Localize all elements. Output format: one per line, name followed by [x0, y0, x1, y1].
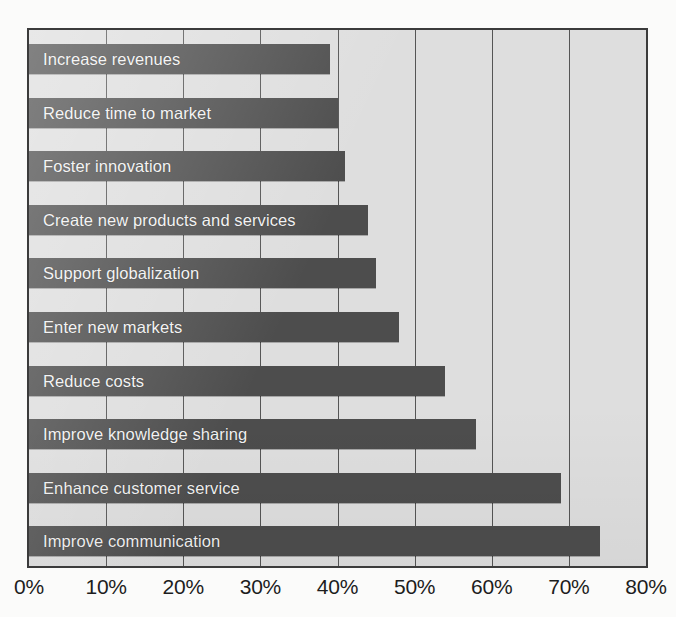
gridline-80pct [646, 30, 647, 566]
bar-category-label: Improve knowledge sharing [43, 419, 247, 449]
x-tick-label: 60% [471, 575, 512, 599]
plot-area: Increase revenuesReduce time to marketFo… [27, 28, 648, 568]
bar-row: Increase revenues [29, 44, 646, 74]
x-tick-label: 0% [14, 575, 44, 599]
x-axis-tick-labels: 0%10%20%30%40%50%60%70%80% [0, 575, 676, 615]
bar-row: Reduce time to market [29, 98, 646, 128]
bar-category-label: Reduce costs [43, 366, 144, 396]
x-tick-label: 80% [625, 575, 666, 599]
x-tick-label: 30% [240, 575, 281, 599]
bar-row: Foster innovation [29, 151, 646, 181]
bar-category-label: Increase revenues [43, 44, 180, 74]
x-tick-label: 40% [317, 575, 358, 599]
bar-row: Support globalization [29, 258, 646, 288]
x-tick-label: 20% [163, 575, 204, 599]
bar-row: Improve communication [29, 526, 646, 556]
bar-category-label: Enter new markets [43, 312, 182, 342]
bar-row: Enhance customer service [29, 473, 646, 503]
bar-row: Create new products and services [29, 205, 646, 235]
bar-category-label: Foster innovation [43, 151, 171, 181]
bar-category-label: Create new products and services [43, 205, 296, 235]
bar-row: Reduce costs [29, 366, 646, 396]
x-tick-label: 50% [394, 575, 435, 599]
bar-category-label: Enhance customer service [43, 473, 240, 503]
chart-page: Increase revenuesReduce time to marketFo… [0, 0, 676, 617]
x-tick-label: 70% [548, 575, 589, 599]
bar-row: Enter new markets [29, 312, 646, 342]
bar-row: Improve knowledge sharing [29, 419, 646, 449]
bar-category-label: Support globalization [43, 258, 199, 288]
bar-category-label: Improve communication [43, 526, 220, 556]
x-tick-label: 10% [85, 575, 126, 599]
bar-category-label: Reduce time to market [43, 98, 211, 128]
